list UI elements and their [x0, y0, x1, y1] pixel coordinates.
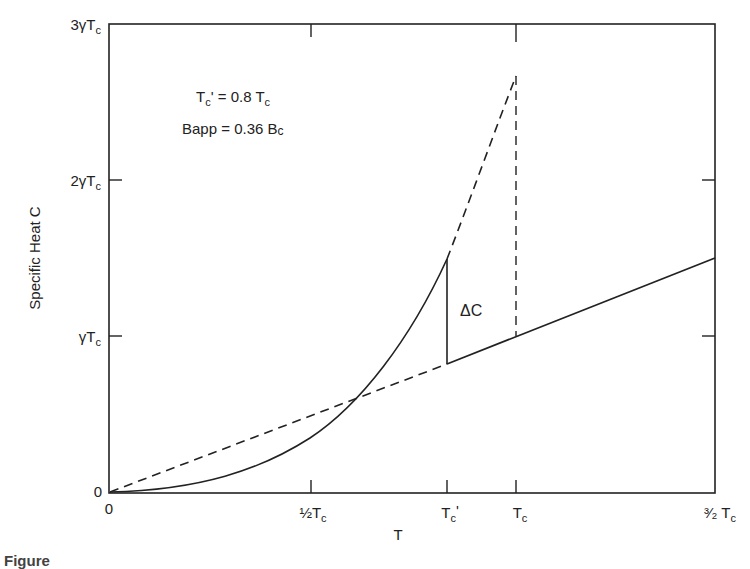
normal-state-dashed-line [110, 364, 447, 492]
x-tick-0: 0 [105, 500, 113, 517]
x-tick-tc: Tc [513, 504, 528, 524]
y-tick-3: 3γTc [70, 16, 101, 36]
x-ticks [311, 24, 516, 493]
annotation-bapp: Bapp = 0.36 Bc [182, 120, 284, 138]
x-tick-tc-prime: Tc' [441, 502, 459, 524]
normal-state-solid-line [447, 258, 715, 364]
y-tick-1: γTc [79, 328, 102, 348]
superconducting-dashed-extension [447, 76, 516, 259]
figure-caption: Figure [4, 552, 50, 569]
x-axis-label: T [393, 526, 402, 543]
annotation-tc-prime: Tc' = 0.8 Tc [196, 88, 271, 108]
superconducting-curve [110, 259, 447, 492]
y-ticks [109, 180, 715, 336]
annotation-delta-c: ΔC [460, 302, 482, 319]
y-tick-2: 2γTc [70, 172, 101, 192]
y-tick-0: 0 [94, 483, 102, 500]
x-tick-three-halves-tc: ³⁄₂ Tc [704, 504, 736, 524]
y-axis-label: Specific Heat C [26, 206, 43, 310]
x-tick-half-tc: ½Tc [299, 504, 327, 524]
